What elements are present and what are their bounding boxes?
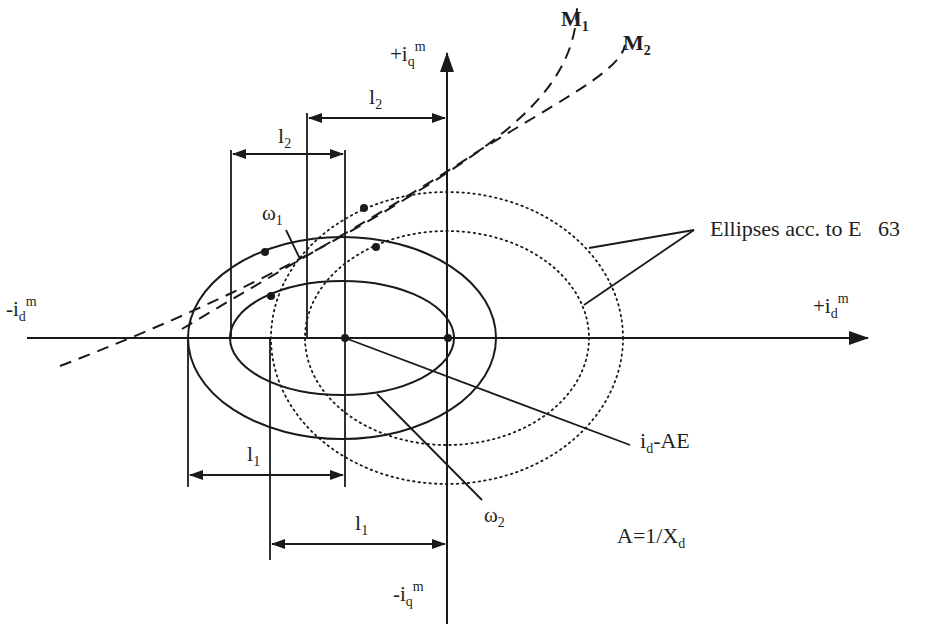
point-axis-right [444,334,452,342]
label-id-ae: id-AE [640,430,690,456]
point-m2-omega2 [267,292,275,300]
point-m1-omega1 [261,248,269,256]
label-id-negative: -idm [6,295,37,324]
point-m1-dotted [360,204,368,212]
label-l1-lower: l1 [355,512,368,538]
label-id-positive: +idm [813,292,849,321]
torque-curve-m1 [60,8,577,366]
pointer-ellipse-inner [584,230,694,305]
point-m2-dotted [372,243,380,251]
current-locus-diagram [0,0,940,624]
label-l1-upper: l1 [247,443,260,469]
label-l2-upper: l2 [369,86,382,112]
pointer-ellipse-outer [589,230,694,248]
torque-curve-m2 [182,45,625,329]
label-iq-positive: +iqm [390,40,426,69]
label-omega2: ω2 [484,505,505,530]
label-iq-negative: -iqm [393,580,424,609]
label-m1: M1 [561,8,589,34]
pointer-omega1 [286,230,300,259]
label-ellipses-annotation: Ellipses acc. to E 63 [710,218,900,240]
label-l2-lower: l2 [278,125,291,151]
label-a-formula: A=1/Xd [617,525,685,551]
label-m2: M2 [623,32,651,58]
point-center-solid [341,334,349,342]
label-omega1: ω1 [262,203,283,228]
